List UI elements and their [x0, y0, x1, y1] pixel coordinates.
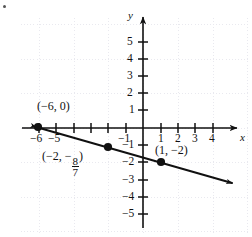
fraction-numerator: 8 [72, 156, 80, 166]
x-tick-label-3: 3 [192, 133, 198, 145]
y-tick-label-2: 2 [127, 87, 133, 99]
graph-figure: y x −6 −5 −1 1 2 3 4 5 4 3 2 1 −1 −2 −3 … [0, 0, 252, 237]
fraction-8-over-7: 87 [72, 156, 80, 178]
y-tick-label-minus4: −4 [122, 191, 134, 203]
y-tick-label-minus5: −5 [122, 208, 134, 220]
y-tick-label-3: 3 [127, 70, 133, 82]
y-tick-label-minus3: −3 [122, 174, 134, 186]
y-tick-label-minus1: −1 [122, 139, 134, 151]
point-label-b-prefix: (−2, − [42, 149, 72, 163]
background-grid [21, 18, 248, 234]
x-tick-label-minus6: −6 [30, 133, 42, 145]
x-tick-label-4: 4 [209, 133, 215, 145]
y-tick-label-5: 5 [127, 36, 133, 48]
point-label-b-suffix: ) [79, 149, 83, 163]
y-tick-label-1: 1 [129, 104, 135, 116]
y-axis-label: y [128, 10, 133, 21]
data-point-1-minus2 [157, 158, 165, 166]
y-tick-label-4: 4 [127, 53, 133, 65]
data-point-minus2-minus8over7 [104, 143, 112, 151]
x-tick-label-minus5: −5 [48, 133, 60, 145]
point-label-minus6-0: (−6, 0) [37, 100, 70, 112]
data-point-minus6-0 [34, 123, 42, 131]
fraction-denominator: 7 [72, 166, 80, 177]
point-label-minus2-minus8over7: (−2, −87) [42, 150, 83, 177]
point-label-1-minus2: (1, −2) [155, 144, 188, 156]
y-tick-label-minus2: −2 [122, 156, 134, 168]
x-axis-label: x [240, 132, 245, 143]
